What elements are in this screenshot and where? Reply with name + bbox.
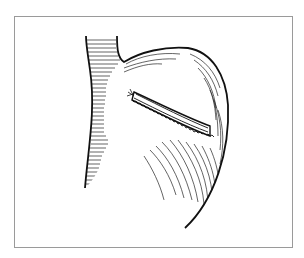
suture-knot-icon: [127, 89, 134, 96]
stomach-illustration: [0, 0, 304, 258]
suture-line: [127, 89, 214, 137]
